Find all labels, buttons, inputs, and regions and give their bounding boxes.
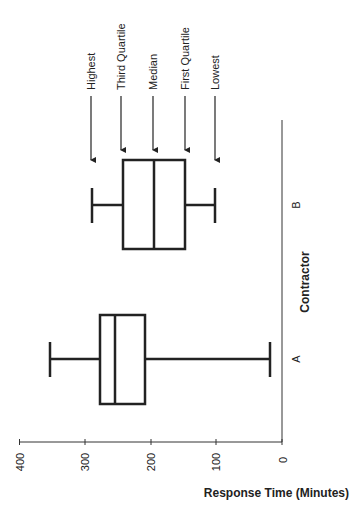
tick-label-0: 0 xyxy=(277,457,289,463)
annotation-highest: Highest xyxy=(85,53,97,90)
category-label-b: B xyxy=(290,201,302,208)
annotation-first-quartile: First Quartile xyxy=(179,27,191,90)
tick-label-100: 100 xyxy=(210,453,222,471)
annotation-lowest: Lowest xyxy=(209,55,221,90)
tick-label-200: 200 xyxy=(145,453,157,471)
annotation-third-quartile: Third Quartile xyxy=(115,23,127,90)
annotations xyxy=(91,96,215,160)
tick-label-400: 400 xyxy=(14,453,26,471)
box-a-iqr xyxy=(100,315,145,404)
y-axis-title: Response Time (Minutes) xyxy=(204,486,349,500)
category-label-a: A xyxy=(290,355,302,363)
box-b xyxy=(92,160,215,249)
box-a xyxy=(50,315,270,404)
x-axis-title: Contractor xyxy=(298,251,312,313)
tick-label-300: 300 xyxy=(79,453,91,471)
annotation-median: Median xyxy=(147,54,159,90)
box-plot-chart: 400 300 200 100 0 Response Time (Minutes… xyxy=(0,0,363,531)
value-axis xyxy=(20,439,283,445)
